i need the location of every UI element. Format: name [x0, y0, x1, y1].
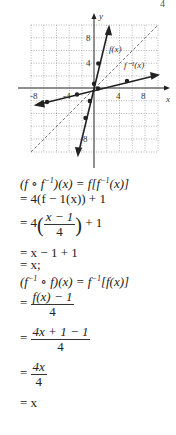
expr: ∘ f)(x) = f: [37, 274, 91, 289]
y-axis-arrow-icon: [92, 13, 97, 19]
paren: (: [37, 214, 44, 236]
x-tick-neg8: -8: [30, 91, 38, 101]
composition-line-7: = f(x) − 14: [20, 290, 74, 319]
composition-line-10: = x: [20, 396, 37, 410]
y-tick-8: 8: [86, 33, 91, 43]
superscript: −1: [92, 274, 101, 283]
function-graph: y x -8 -4 4 8 8 4 -8 f(x) f⁻¹(x): [0, 0, 176, 170]
expr: (f ∘ f: [20, 176, 44, 191]
numerator: 4x + 1 − 1: [31, 325, 91, 340]
x-tick-4: 4: [116, 91, 121, 101]
superscript: −1: [44, 176, 53, 185]
composition-line-8: = 4x + 1 − 14: [20, 325, 90, 354]
fraction: 4x + 1 − 14: [31, 325, 91, 354]
expr: + 1: [85, 215, 102, 230]
x-axis-label: x: [165, 94, 170, 104]
paren: ): [75, 214, 82, 236]
expr: =: [20, 295, 27, 310]
x-tick-8: 8: [141, 91, 146, 101]
composition-line-2: = 4(f − 1(x)) + 1: [20, 192, 106, 206]
y-tick-4: 4: [86, 58, 91, 68]
expr: )(x) = f: [54, 176, 92, 191]
fraction: 4x4: [31, 360, 47, 389]
y-tick-neg8: -8: [80, 134, 88, 144]
f-inverse-curve-label: f⁻¹(x): [124, 60, 144, 70]
fraction: f(x) − 14: [31, 290, 75, 319]
denominator: 4: [31, 375, 47, 389]
denominator: 4: [44, 225, 76, 239]
denominator: 4: [31, 340, 91, 354]
superscript: −1: [28, 274, 37, 283]
composition-line-1: (f ∘ f−1)(x) = f[f−1(x)]: [20, 174, 129, 191]
expr: [f(x)]: [101, 274, 129, 289]
x-axis-arrow-icon: [164, 86, 170, 91]
expr: =: [20, 330, 27, 345]
superscript: −1: [100, 176, 109, 185]
numerator: 4x: [31, 360, 47, 375]
denominator: 4: [31, 305, 75, 319]
composition-line-9: = 4x4: [20, 360, 47, 389]
expr: [f: [92, 176, 101, 191]
expr: =: [20, 365, 27, 380]
expr: (f: [20, 274, 28, 289]
x-tick-neg4: -4: [63, 91, 71, 101]
expr: = 4: [20, 215, 37, 230]
composition-line-5: = x;: [20, 258, 41, 272]
composition-line-3: = 4(x − 14) + 1: [20, 210, 102, 239]
fraction: x − 14: [44, 210, 76, 239]
numerator: f(x) − 1: [31, 290, 75, 305]
numerator: x − 1: [44, 210, 76, 225]
y-axis-label: y: [98, 11, 103, 21]
f-curve-label: f(x): [109, 44, 122, 54]
composition-line-6: (f−1 ∘ f)(x) = f−1[f(x)]: [20, 272, 129, 289]
expr: (x)]: [110, 176, 130, 191]
